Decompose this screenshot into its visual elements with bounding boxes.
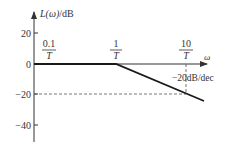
- y-tick-label-minus-20: −20: [15, 89, 31, 100]
- x-tick-1-over-T: 1 T: [110, 38, 122, 61]
- y-tick-label-20: 20: [21, 28, 31, 39]
- svg-text:T: T: [46, 50, 53, 61]
- y-tick-label-0: 0: [26, 59, 31, 70]
- x-tick-0.1-over-T: 0.1 T: [42, 38, 56, 61]
- x-tick-10-over-T: 10 T: [179, 38, 193, 61]
- svg-text:0.1: 0.1: [43, 38, 56, 49]
- bode-plot: L(ω)/dB 20 0 −20 −40 0.1 T 1 T 10 T ω −2…: [0, 0, 226, 148]
- svg-text:1: 1: [114, 38, 119, 49]
- svg-text:T: T: [183, 50, 190, 61]
- slope-annotation: −20dB/dec: [172, 73, 214, 83]
- svg-text:T: T: [113, 50, 120, 61]
- y-ticks: 20 0 −20 −40: [15, 28, 38, 131]
- y-axis-label: L(ω)/dB: [39, 8, 74, 20]
- x-axis-label: ω: [204, 52, 210, 62]
- svg-text:10: 10: [181, 38, 191, 49]
- y-tick-label-minus-40: −40: [15, 120, 31, 131]
